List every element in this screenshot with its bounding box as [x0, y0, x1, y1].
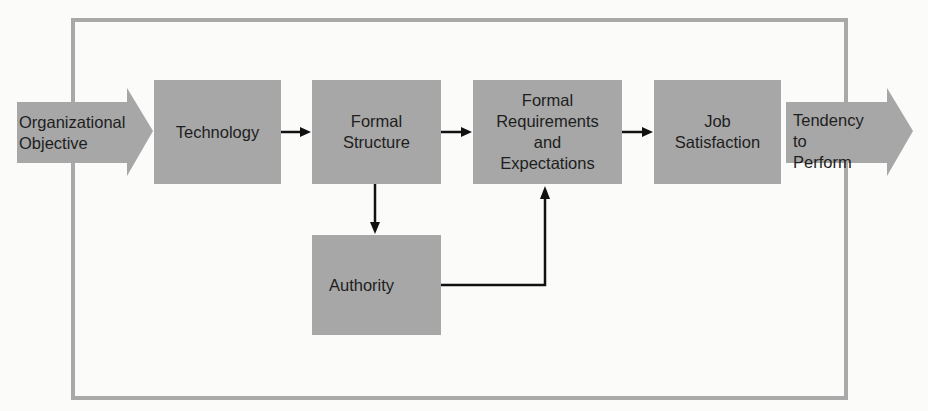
node-formal-requirements: Formal Requirements and Expectations — [473, 80, 622, 184]
node-label: Formal Structure — [343, 111, 410, 153]
arrow-authority-to-requirements — [441, 186, 550, 285]
input-arrow-label: Organizational Objective — [19, 112, 125, 154]
arrow-formal-structure-to-authority — [370, 184, 380, 234]
connectors-layer — [0, 0, 928, 411]
node-label: Authority — [329, 275, 394, 296]
arrow-technology-to-formal-structure — [281, 127, 311, 137]
node-label: Job Satisfaction — [675, 111, 760, 153]
output-arrow-label: Tendency to Perform — [793, 110, 864, 173]
arrow-formal-structure-to-requirements — [441, 127, 472, 137]
arrow-requirements-to-job-satisfaction — [622, 127, 653, 137]
node-technology: Technology — [154, 80, 281, 184]
node-job-satisfaction: Job Satisfaction — [654, 80, 781, 184]
node-authority: Authority — [312, 235, 441, 335]
node-label: Formal Requirements and Expectations — [496, 90, 599, 174]
node-formal-structure: Formal Structure — [312, 80, 441, 184]
node-label: Technology — [176, 122, 259, 143]
